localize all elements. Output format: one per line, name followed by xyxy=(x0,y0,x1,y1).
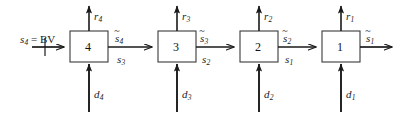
block-flow-diagram: 4 3 2 1 s4 = BV ~s4 s3 ~s3 s2 ~s2 s1 ~s1… xyxy=(0,0,397,118)
tilde-accent-icon: ~ xyxy=(114,26,119,36)
feed-symbol: d xyxy=(346,88,352,100)
outlet-symbol: r xyxy=(346,10,350,22)
tilde-accent-icon: ~ xyxy=(365,26,370,36)
feed-subscript: 1 xyxy=(352,93,356,102)
tilde-accent-icon: ~ xyxy=(199,26,204,36)
stream-symbol: s xyxy=(202,53,206,65)
feed-symbol: d xyxy=(94,88,100,100)
outlet-subscript: 2 xyxy=(269,15,273,24)
outlet-symbol: r xyxy=(182,10,186,22)
stream-subscript: 2 xyxy=(288,37,292,46)
inlet-symbol: s xyxy=(20,33,24,45)
feed-label-d3: d3 xyxy=(182,89,192,102)
stream-label-s2: s2 xyxy=(202,54,210,67)
stage-3-number: 3 xyxy=(173,40,179,55)
stream-subscript: 3 xyxy=(205,37,209,46)
stream-subscript: 4 xyxy=(120,37,124,46)
feed-label-d1: d1 xyxy=(346,89,356,102)
feed-label-d2: d2 xyxy=(264,89,274,102)
outlet-label-r1: r1 xyxy=(346,11,354,24)
inlet-equals-bv: = BV xyxy=(28,33,55,45)
outlet-label-r2: r2 xyxy=(264,11,272,24)
outlet-symbol: r xyxy=(94,10,98,22)
stream-label-tilde-s2: ~s2 xyxy=(283,33,291,46)
stream-label-s1: s1 xyxy=(285,54,293,67)
stage-2-number: 2 xyxy=(255,40,261,55)
stream-subscript: 1 xyxy=(290,58,294,67)
feed-label-d4: d4 xyxy=(94,89,104,102)
stream-subscript: 2 xyxy=(207,58,211,67)
stage-1-number: 1 xyxy=(337,40,343,55)
stream-symbol: s xyxy=(285,53,289,65)
stage-4-number: 4 xyxy=(85,40,91,55)
inlet-stream-label: s4 = BV xyxy=(20,34,55,47)
stream-label-tilde-s1: ~s1 xyxy=(366,33,374,46)
feed-subscript: 4 xyxy=(100,93,104,102)
outlet-symbol: r xyxy=(264,10,268,22)
stream-symbol: s xyxy=(117,53,121,65)
outlet-label-r4: r4 xyxy=(94,11,102,24)
outlet-subscript: 1 xyxy=(351,15,355,24)
feed-subscript: 2 xyxy=(270,93,274,102)
outlet-label-r3: r3 xyxy=(182,11,190,24)
diagram-canvas xyxy=(0,0,397,118)
tilde-accent-icon: ~ xyxy=(282,26,287,36)
stream-subscript: 1 xyxy=(371,37,375,46)
stream-subscript: 3 xyxy=(122,58,126,67)
stream-label-tilde-s4: ~s4 xyxy=(115,33,123,46)
stream-label-s3: s3 xyxy=(117,54,125,67)
feed-subscript: 3 xyxy=(188,93,192,102)
feed-symbol: d xyxy=(182,88,188,100)
stream-label-tilde-s3: ~s3 xyxy=(200,33,208,46)
feed-symbol: d xyxy=(264,88,270,100)
outlet-subscript: 3 xyxy=(187,15,191,24)
outlet-subscript: 4 xyxy=(99,15,103,24)
